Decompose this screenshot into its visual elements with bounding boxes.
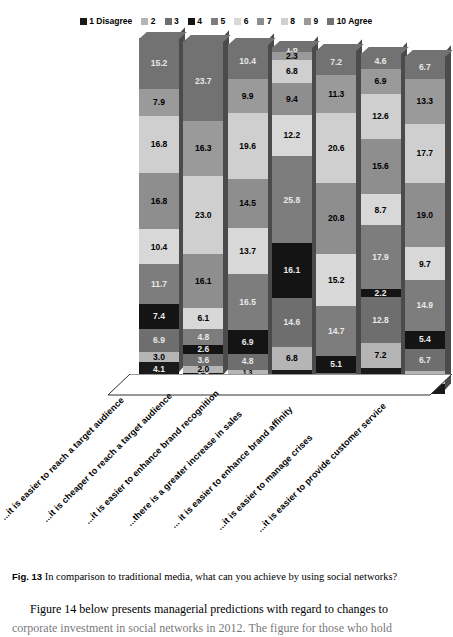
column-segment: 4.8 bbox=[228, 354, 268, 370]
column-top-face bbox=[139, 32, 187, 39]
segment-value-label: 14.9 bbox=[417, 301, 434, 310]
column-segment: 17.9 bbox=[361, 225, 401, 289]
body-paragraph: Figure 14 below presents managerial pred… bbox=[12, 600, 442, 637]
column-segment: 2.6 bbox=[183, 345, 223, 354]
chart-column: 15.27.916.816.810.411.77.46.93.04.1 bbox=[139, 38, 179, 376]
segment-value-label: 4.1 bbox=[153, 365, 165, 374]
legend-item-label: 8 bbox=[290, 17, 295, 26]
column-segment: 12.8 bbox=[361, 297, 401, 343]
column-segment: 6.7 bbox=[405, 349, 445, 372]
column-segment: 8.7 bbox=[361, 194, 401, 225]
segment-value-label: 15.2 bbox=[151, 59, 168, 68]
segment-value-label: 12.2 bbox=[284, 131, 301, 140]
column-segment: 9.9 bbox=[228, 79, 268, 113]
segment-value-label: 16.1 bbox=[195, 277, 212, 286]
legend-item: 8 bbox=[281, 17, 295, 26]
segment-value-label: 12.8 bbox=[372, 316, 389, 325]
segment-value-label: 11.7 bbox=[151, 280, 167, 289]
column-segment: 13.3 bbox=[405, 79, 445, 124]
legend-item-label: 7 bbox=[267, 17, 272, 26]
column-segment: 23.7 bbox=[183, 41, 223, 121]
segment-value-label: 4.8 bbox=[242, 357, 254, 366]
legend-item: 4 bbox=[188, 17, 202, 26]
segment-value-label: 2.3 bbox=[286, 52, 298, 60]
segment-value-label: 4.6 bbox=[375, 57, 387, 66]
legend-swatch-icon bbox=[257, 18, 264, 25]
column-segment: 14.6 bbox=[272, 298, 312, 347]
column-segment: 7.2 bbox=[316, 50, 356, 75]
legend-item-label: 5 bbox=[220, 17, 225, 26]
column-stack: 4.66.912.615.68.717.92.212.87.26.4 bbox=[361, 53, 401, 391]
column-segment: 6.7 bbox=[405, 56, 445, 79]
legend-item: 5 bbox=[211, 17, 225, 26]
segment-value-label: 7.2 bbox=[330, 58, 342, 67]
column-segment: 14.9 bbox=[405, 280, 445, 330]
segment-value-label: 4.8 bbox=[197, 333, 209, 342]
column-top-face bbox=[405, 50, 453, 57]
column-segment: 3.0 bbox=[139, 352, 179, 362]
segment-value-label: 14.7 bbox=[328, 327, 345, 336]
figure-caption: Fig. 13 In comparison to traditional med… bbox=[12, 570, 444, 583]
legend-swatch-icon bbox=[281, 18, 288, 25]
segment-value-label: 17.9 bbox=[372, 253, 389, 262]
segment-value-label: 6.1 bbox=[197, 314, 209, 323]
column-segment: 6.8 bbox=[272, 347, 312, 370]
legend-swatch-icon bbox=[165, 18, 172, 25]
body-line-2: corporate investment in social networks … bbox=[12, 619, 442, 637]
column-segment: 2.2 bbox=[361, 289, 401, 297]
column-segment: 7.4 bbox=[139, 304, 179, 329]
column-segment: 7.2 bbox=[361, 343, 401, 369]
legend-swatch-icon bbox=[211, 18, 218, 25]
segment-value-label: 11.3 bbox=[328, 90, 344, 99]
legend-item: 7 bbox=[257, 17, 271, 26]
segment-value-label: 16.8 bbox=[151, 140, 168, 149]
segment-value-label: 6.9 bbox=[153, 336, 165, 345]
column-segment: 20.6 bbox=[316, 113, 356, 183]
segment-value-label: 6.8 bbox=[286, 354, 298, 363]
figure-number: Fig. 13 bbox=[12, 571, 42, 582]
segment-value-label: 16.1 bbox=[284, 266, 301, 275]
segment-value-label: 25.8 bbox=[284, 196, 301, 205]
figure-caption-text: In comparison to traditional media, what… bbox=[45, 571, 398, 582]
segment-value-label: 20.8 bbox=[328, 214, 345, 223]
column-segment: 5.4 bbox=[405, 331, 445, 349]
chart-column: 1.62.36.89.412.225.816.114.66.84.4 bbox=[272, 47, 312, 385]
column-segment: 9.7 bbox=[405, 247, 445, 280]
segment-value-label: 13.3 bbox=[417, 97, 434, 106]
column-stack: 23.716.323.016.16.14.82.63.62.01.8 bbox=[183, 41, 223, 379]
segment-value-label: 19.0 bbox=[417, 211, 434, 220]
legend-item-label: 6 bbox=[244, 17, 249, 26]
segment-value-label: 23.0 bbox=[195, 211, 212, 220]
column-segment: 6.9 bbox=[228, 330, 268, 353]
column-segment: 15.6 bbox=[361, 139, 401, 195]
column-stack: 10.49.919.614.513.716.56.94.81.32.3 bbox=[228, 44, 268, 382]
segment-value-label: 7.9 bbox=[153, 98, 165, 107]
segment-value-label: 6.7 bbox=[419, 63, 431, 72]
legend-swatch-icon bbox=[304, 18, 311, 25]
column-segment: 10.4 bbox=[139, 229, 179, 264]
column-top-face bbox=[272, 41, 320, 48]
segment-value-label: 15.6 bbox=[372, 162, 389, 171]
segment-value-label: 2.2 bbox=[375, 289, 387, 297]
column-segment: 11.3 bbox=[316, 75, 356, 114]
column-segment: 9.4 bbox=[272, 83, 312, 115]
column-segment: 19.6 bbox=[228, 113, 268, 179]
column-side-face bbox=[444, 45, 451, 391]
segment-value-label: 6.7 bbox=[419, 356, 431, 365]
segment-value-label: 13.7 bbox=[239, 247, 256, 256]
legend-item-label: 9 bbox=[313, 17, 318, 26]
segment-value-label: 12.6 bbox=[372, 112, 389, 121]
segment-value-label: 10.4 bbox=[151, 243, 168, 252]
column-segment: 13.7 bbox=[228, 228, 268, 274]
segment-value-label: 6.9 bbox=[375, 77, 387, 86]
column-segment: 16.5 bbox=[228, 274, 268, 330]
segment-value-label: 23.7 bbox=[195, 77, 212, 86]
legend-item: 10 Agree bbox=[327, 17, 372, 26]
segment-value-label: 9.7 bbox=[419, 260, 431, 269]
column-segment: 23.0 bbox=[183, 176, 223, 254]
legend-item-label: 2 bbox=[151, 17, 156, 26]
segment-value-label: 16.3 bbox=[195, 144, 212, 153]
column-segment: 11.7 bbox=[139, 264, 179, 303]
column-top-face bbox=[316, 44, 364, 51]
segment-value-label: 3.6 bbox=[197, 356, 209, 365]
